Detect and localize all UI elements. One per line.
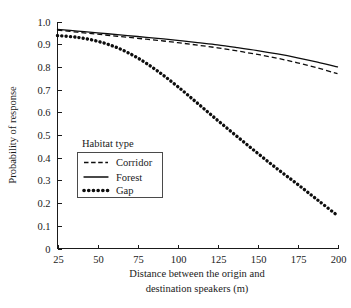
y-tick-label: 0.9 <box>37 39 50 50</box>
x-tick-label: 75 <box>133 254 144 265</box>
x-tick-label: 100 <box>171 254 187 265</box>
y-tick-label: 0.5 <box>37 130 50 141</box>
x-tick-label: 175 <box>291 254 307 265</box>
axis-frame <box>58 22 338 249</box>
legend-label-forest: Forest <box>116 172 142 183</box>
legend-label-gap: Gap <box>116 185 134 196</box>
legend-title: Habitat type <box>82 138 134 149</box>
y-tick-label: 1.0 <box>37 17 50 28</box>
x-tick-labels: 255075100125150175200 <box>53 254 346 265</box>
y-tick-label: 0.6 <box>37 107 50 118</box>
x-tick-label: 200 <box>331 254 347 265</box>
x-tick-label: 50 <box>93 254 104 265</box>
y-tick-marks <box>58 23 62 250</box>
x-tick-marks <box>59 245 339 249</box>
chart-figure: 00.10.20.30.40.50.60.70.80.91.0 25507510… <box>0 0 351 308</box>
y-tick-label: 0 <box>45 244 50 255</box>
legend: Habitat type CorridorForestGap <box>78 138 163 198</box>
y-tick-label: 0.8 <box>37 62 50 73</box>
chart-canvas: 00.10.20.30.40.50.60.70.80.91.0 25507510… <box>0 0 351 308</box>
x-axis-title-line2: destination speakers (m) <box>146 283 249 295</box>
y-axis-title: Probability of response <box>7 86 18 184</box>
x-axis-title-line1: Distance between the origin and <box>129 268 265 279</box>
y-tick-labels: 00.10.20.30.40.50.60.70.80.91.0 <box>37 17 51 255</box>
x-tick-label: 25 <box>53 254 64 265</box>
y-tick-label: 0.3 <box>37 175 50 186</box>
x-tick-label: 150 <box>251 254 267 265</box>
series-corridor <box>58 30 338 74</box>
y-tick-label: 0.1 <box>37 221 50 232</box>
legend-label-corridor: Corridor <box>116 157 153 168</box>
y-tick-label: 0.2 <box>37 198 50 209</box>
x-tick-label: 125 <box>211 254 227 265</box>
y-tick-label: 0.4 <box>37 153 51 164</box>
y-tick-label: 0.7 <box>37 85 50 96</box>
